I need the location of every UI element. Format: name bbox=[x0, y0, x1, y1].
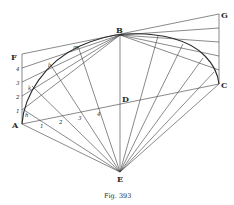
frame-lines bbox=[22, 14, 219, 172]
left-number-3: 3 bbox=[16, 80, 20, 86]
label-b: B bbox=[116, 25, 123, 35]
left-number-4: 4 bbox=[15, 66, 20, 72]
base-number-3: 3 bbox=[78, 115, 82, 121]
geometric-construction-figure: A B C D E F G 1 2 3 4 1 2 3 4 h k l m Fi… bbox=[0, 0, 234, 205]
lines-from-b-left bbox=[22, 35, 120, 110]
left-side-numbers: 1 2 3 4 bbox=[15, 66, 20, 114]
curve-label-m: m bbox=[73, 44, 78, 50]
base-number-4: 4 bbox=[96, 111, 101, 117]
curve-label-h: h bbox=[25, 112, 29, 118]
left-number-2: 2 bbox=[15, 94, 20, 100]
curve-labels: h k l m bbox=[25, 44, 78, 118]
label-g: G bbox=[221, 10, 228, 20]
lines-from-b-right bbox=[120, 28, 219, 70]
curve-label-l: l bbox=[48, 62, 50, 68]
label-d: D bbox=[122, 94, 129, 104]
base-number-1: 1 bbox=[40, 123, 44, 129]
figure-caption: Fig. 393 bbox=[104, 192, 131, 200]
left-number-1: 1 bbox=[16, 108, 20, 114]
label-f: F bbox=[11, 52, 17, 62]
label-e: E bbox=[117, 174, 123, 184]
base-number-2: 2 bbox=[58, 119, 63, 125]
label-c: C bbox=[221, 80, 227, 90]
label-a: A bbox=[11, 120, 19, 130]
